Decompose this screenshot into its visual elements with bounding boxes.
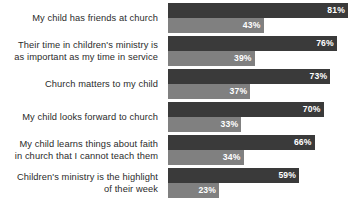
chart-rows: My child has friends at church81%43%Thei… <box>0 0 363 202</box>
category-label: Their time in children's ministry isas i… <box>0 35 163 68</box>
bar-secondary: 34% <box>168 150 244 165</box>
bar-primary: 70% <box>168 102 324 117</box>
grouped-horizontal-bar-chart: My child has friends at church81%43%Thei… <box>0 0 363 202</box>
chart-row: Their time in children's ministry isas i… <box>0 35 363 68</box>
bar-value-label: 81% <box>327 6 345 15</box>
category-label: My child looks forward to church <box>0 101 163 134</box>
bar-value-label: 33% <box>221 120 239 129</box>
category-label-line: Church matters to my child <box>45 79 158 90</box>
bar-value-label: 34% <box>223 153 241 162</box>
chart-row: Children's ministry is the highlightof t… <box>0 167 363 200</box>
category-label-line: in church that I cannot teach them <box>15 151 158 162</box>
category-label-line: My child learns things about faith <box>19 139 158 150</box>
bar-value-label: 73% <box>309 72 327 81</box>
chart-row: My child has friends at church81%43% <box>0 2 363 35</box>
bar-value-label: 23% <box>198 186 216 195</box>
bar-secondary: 37% <box>168 84 250 99</box>
bar-value-label: 43% <box>243 21 261 30</box>
category-label: My child learns things about faithin chu… <box>0 134 163 167</box>
category-label-line: of their week <box>104 184 158 195</box>
bar-value-label: 70% <box>303 105 321 114</box>
chart-row: My child learns things about faithin chu… <box>0 134 363 167</box>
category-label-line: as important as my time in service <box>14 52 158 63</box>
category-label: Church matters to my child <box>0 68 163 101</box>
bar-value-label: 37% <box>229 87 247 96</box>
category-label-line: My child looks forward to church <box>22 112 158 123</box>
bar-value-label: 59% <box>278 171 296 180</box>
bar-secondary: 23% <box>168 183 219 198</box>
bar-value-label: 39% <box>234 54 252 63</box>
bar-primary: 73% <box>168 69 330 84</box>
bar-value-label: 76% <box>316 39 334 48</box>
bar-primary: 66% <box>168 135 315 150</box>
bar-secondary: 39% <box>168 51 255 66</box>
chart-row: Church matters to my child73%37% <box>0 68 363 101</box>
bar-secondary: 43% <box>168 18 264 33</box>
category-label-line: Children's ministry is the highlight <box>17 172 158 183</box>
bar-primary: 76% <box>168 36 337 51</box>
category-label-line: My child has friends at church <box>32 13 158 24</box>
category-label: Children's ministry is the highlightof t… <box>0 167 163 200</box>
bar-value-label: 66% <box>294 138 312 147</box>
chart-row: My child looks forward to church70%33% <box>0 101 363 134</box>
bar-primary: 81% <box>168 3 348 18</box>
category-label: My child has friends at church <box>0 2 163 35</box>
category-label-line: Their time in children's ministry is <box>18 40 158 51</box>
bar-primary: 59% <box>168 168 299 183</box>
bar-secondary: 33% <box>168 117 241 132</box>
